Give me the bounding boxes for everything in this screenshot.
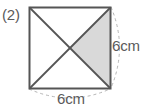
dimension-label-bottom: 6cm <box>57 91 85 106</box>
dimension-label-right: 6cm <box>112 38 140 53</box>
shaded-triangle-icon <box>70 7 111 88</box>
item-number-label: (2) <box>2 7 20 22</box>
geometry-figure: (2) 6cm 6cm <box>0 0 146 109</box>
